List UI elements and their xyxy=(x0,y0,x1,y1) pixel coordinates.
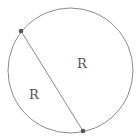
circle-chord-diagram: R R xyxy=(0,0,139,140)
minor-segment-label: R xyxy=(29,87,40,102)
chord-line xyxy=(21,31,83,131)
chord-endpoint-top xyxy=(19,29,24,34)
chord-endpoint-bottom xyxy=(81,129,86,134)
circle-outline xyxy=(8,8,133,133)
major-segment-label: R xyxy=(77,56,88,71)
